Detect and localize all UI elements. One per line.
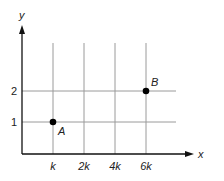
x-axis-label: x — [197, 148, 204, 160]
x-tick-2k: 2k — [77, 160, 90, 172]
point-a-label: A — [57, 125, 65, 137]
point-b — [143, 88, 150, 95]
x-tick-6k: 6k — [140, 160, 152, 172]
y-axis-arrow-icon — [19, 25, 25, 34]
coordinate-diagram: y x 2 1 k 2k 4k 6k A B — [0, 0, 224, 181]
y-tick-2: 2 — [11, 85, 17, 97]
point-a — [50, 119, 57, 126]
point-b-label: B — [151, 76, 158, 88]
x-tick-k: k — [50, 160, 56, 172]
y-axis-label: y — [18, 9, 26, 21]
x-tick-4k: 4k — [109, 160, 121, 172]
y-tick-1: 1 — [11, 116, 17, 128]
x-axis-arrow-icon — [185, 151, 194, 157]
